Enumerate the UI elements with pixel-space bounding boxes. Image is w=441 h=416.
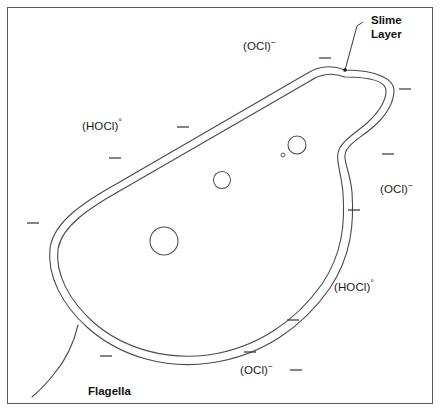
inclusion-small [288,136,306,154]
inclusion-large [150,227,178,255]
cell-inner-membrane-path [58,74,386,356]
species-formula: (OCl) [243,40,271,52]
species-label-ocl-top: (OCl)− [243,40,276,52]
slime-layer-label: SlimeLayer [371,14,402,41]
ion-dash-marks-group [27,58,411,370]
species-label-ocl-bottom: (OCl)− [240,364,273,376]
species-formula: (OCl) [240,364,268,376]
species-formula: (HOCl) [334,281,370,293]
cell-inclusions-group [150,136,306,255]
bacterial-cell-group [32,67,394,397]
species-formula: (OCl) [380,183,408,195]
inclusion-dot [281,153,285,157]
slime-layer-leader-line [345,22,363,70]
bacteria-slime-layer-diagram: (OCl)−(HOCl)°(OCl)−(HOCl)°(OCl)− SlimeLa… [0,0,441,416]
inclusion-medium [214,172,231,189]
species-label-hocl-right: (HOCl)° [334,281,374,293]
species-charge: − [271,37,276,47]
slime-layer-label-line2: Layer [371,28,402,42]
species-charge: − [268,361,273,371]
diagram-canvas [0,0,441,416]
cell-outer-membrane-path [50,67,394,365]
species-label-hocl-left: (HOCl)° [82,120,122,132]
species-charge: − [408,180,413,190]
slime-layer-label-line1: Slime [371,14,402,28]
flagellum-path [32,325,78,397]
slime-layer-anchor-dot [343,68,347,72]
species-label-ocl-right: (OCl)− [380,183,413,195]
callout-leader-lines-group [343,22,363,72]
species-charge: ° [118,117,122,127]
species-formula: (HOCl) [82,120,118,132]
part-label-flagella: Flagella [88,385,131,397]
species-charge: ° [370,278,374,288]
